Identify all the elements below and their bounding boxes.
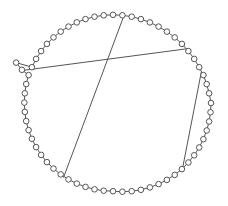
- graph-node: [201, 72, 207, 78]
- graph-node: [38, 48, 44, 54]
- graph-node: [29, 64, 35, 70]
- graph-node: [179, 166, 185, 172]
- graph-node: [120, 13, 126, 19]
- graph-node: [22, 109, 28, 115]
- graph-node: [101, 13, 107, 19]
- graph-node: [138, 16, 144, 22]
- graph-node: [92, 14, 98, 20]
- graph-node: [129, 188, 135, 194]
- graph-node: [26, 72, 32, 78]
- graph-node: [186, 160, 192, 166]
- graph-node: [129, 14, 135, 20]
- graph-node: [110, 188, 116, 194]
- graph-node: [29, 136, 35, 142]
- graph-node: [156, 24, 162, 30]
- graph-node: [83, 184, 89, 190]
- graph-node: [33, 56, 39, 62]
- graph-node: [186, 48, 192, 54]
- graph-node: [51, 166, 57, 172]
- graph-node: [156, 181, 162, 187]
- graph-node: [164, 177, 170, 183]
- graph-node: [51, 35, 57, 41]
- graph-node: [74, 20, 80, 26]
- graph-node: [44, 41, 50, 47]
- graph-node: [201, 136, 207, 142]
- graph-figure: [0, 0, 228, 206]
- graph-node: [206, 91, 212, 97]
- graph-node: [164, 29, 170, 35]
- graph-node: [44, 159, 50, 165]
- graph-node: [208, 100, 214, 106]
- graph-node: [23, 81, 29, 87]
- graph-node: [110, 12, 116, 18]
- graph-node: [58, 29, 64, 35]
- graph-node: [58, 172, 64, 178]
- graph-node: [172, 35, 178, 41]
- figure-background: [0, 0, 228, 206]
- graph-node: [196, 145, 202, 151]
- graph-node: [83, 16, 89, 22]
- graph-canvas: [0, 0, 228, 206]
- graph-node: [23, 118, 29, 124]
- graph-node: [66, 24, 72, 30]
- graph-node: [74, 181, 80, 187]
- graph-node: [120, 189, 126, 195]
- graph-node: [22, 91, 28, 97]
- graph-node: [208, 110, 214, 116]
- graph-node: [147, 185, 153, 191]
- graph-node: [26, 127, 32, 133]
- graph-node: [66, 177, 72, 183]
- graph-node: [33, 144, 39, 150]
- graph-node: [204, 128, 210, 134]
- graph-node: [191, 153, 197, 159]
- graph-node: [206, 119, 212, 125]
- graph-node: [92, 187, 98, 193]
- graph-node: [147, 20, 153, 26]
- graph-node: [204, 81, 210, 87]
- graph-node: [138, 187, 144, 193]
- graph-node: [179, 41, 185, 47]
- graph-node: [19, 67, 25, 73]
- graph-node: [38, 152, 44, 158]
- graph-node: [172, 172, 178, 178]
- graph-node: [191, 56, 197, 62]
- graph-node: [196, 64, 202, 70]
- graph-node: [13, 60, 19, 66]
- graph-node: [22, 100, 28, 106]
- graph-node: [101, 188, 107, 194]
